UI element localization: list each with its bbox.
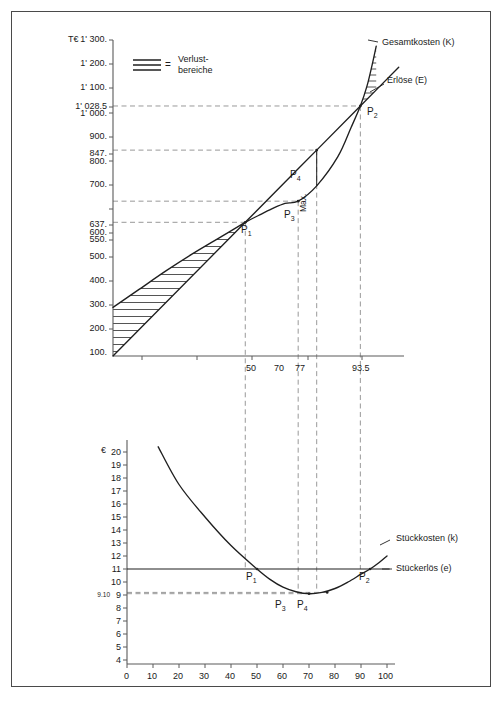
top-y-label-200: 200. [89, 323, 107, 333]
top-y-label-700: 700. [89, 179, 107, 189]
bottom-chart-y-axis-unit: € [101, 445, 106, 455]
bottom-point-P2-letter: P [359, 571, 366, 582]
bottom-x-label-0: 0 [124, 671, 129, 681]
bottom-y-label-10: 10 [111, 577, 121, 587]
bottom-x-label-20: 20 [173, 671, 183, 681]
bottom-chart-axes [127, 440, 395, 664]
top-y-label-1200: 1' 200. [80, 58, 107, 68]
bottom-x-label-100: 100 [378, 671, 393, 681]
top-point-P2-sub: 2 [374, 112, 378, 119]
bottom-y-label-9: 9 [116, 590, 121, 600]
top-x-label-70: 70 [274, 363, 284, 373]
bottom-x-label-40: 40 [225, 671, 235, 681]
top-point-P1: P1 [241, 225, 252, 239]
top-point-P3-sub: 3 [291, 215, 295, 222]
figure-frame: T€ 1' 300. 1' 200. 1' 100. 1' 028.5 1' 0… [11, 11, 491, 687]
bottom-x-label-30: 30 [199, 671, 209, 681]
bottom-y-label-19: 19 [111, 460, 121, 470]
bottom-chart-y-ticks [123, 452, 127, 660]
bottom-y-label-9-10: 9.10 [97, 590, 110, 600]
bottom-point-P3-letter: P [275, 599, 282, 610]
bottom-y-label-17: 17 [111, 486, 121, 496]
bottom-chart-x-ticks [127, 664, 387, 668]
top-point-P2: P2 [367, 107, 378, 121]
bottom-y-label-6: 6 [116, 629, 121, 639]
bottom-x-label-90: 90 [355, 671, 365, 681]
top-x-label-93-5: 93.5 [352, 363, 370, 373]
bottom-y-label-13: 13 [111, 538, 121, 548]
bottom-y-label-8: 8 [116, 603, 121, 613]
top-point-P4-letter: P [290, 169, 297, 180]
bottom-y-label-12: 12 [111, 551, 121, 561]
top-y-label-100: 100. [89, 347, 107, 357]
bottom-x-label-70: 70 [303, 671, 313, 681]
legend-equals-sign: = [165, 60, 171, 70]
top-chart-y-axis-unit: T€ [68, 34, 79, 44]
bottom-point-P4-letter: P [297, 599, 304, 610]
bottom-x-label-50: 50 [251, 671, 261, 681]
bottom-point-P4: P4 [297, 600, 308, 614]
unit-cost-curve-k [158, 447, 387, 594]
top-y-label-800: 800. [89, 156, 107, 166]
unit-cost-curve-label: Stückkosten (k) [396, 533, 458, 543]
top-x-label-77: 77 [295, 363, 305, 373]
bottom-y-label-16: 16 [111, 499, 121, 509]
top-point-P4: P4 [290, 170, 301, 184]
bottom-point-P2: P2 [359, 572, 370, 586]
top-y-label-500: 500. [89, 251, 107, 261]
bottom-y-label-5: 5 [116, 642, 121, 652]
top-y-label-1000: 1' 000. [80, 108, 107, 118]
bottom-y-label-14: 14 [111, 525, 121, 535]
bottom-y-label-4: 4 [116, 655, 121, 665]
bottom-curve-label-leaders [380, 540, 392, 569]
revenue-line-E [113, 67, 399, 356]
bottom-x-label-80: 80 [329, 671, 339, 681]
bottom-y-label-20: 20 [111, 447, 121, 457]
top-chart-guide-lines [113, 106, 360, 594]
legend-text-line2: bereiche [178, 65, 213, 75]
figure-page: T€ 1' 300. 1' 200. 1' 100. 1' 028.5 1' 0… [0, 0, 504, 709]
bottom-y-label-11: 11 [112, 564, 121, 574]
unit-revenue-curve-label: Stückerlös (e) [396, 563, 452, 573]
top-y-label-550: 550. [89, 234, 107, 244]
top-x-label-50: 50 [246, 363, 256, 373]
cost-curve-label: Gesamtkosten (K) [382, 37, 455, 47]
bottom-point-P4-sub: 4 [304, 605, 308, 612]
total-cost-curve-K [113, 46, 376, 307]
top-chart-y-ticks [109, 40, 113, 329]
legend-hatch-symbol [133, 60, 161, 70]
bottom-point-P3-sub: 3 [282, 605, 286, 612]
top-point-P2-letter: P [367, 106, 374, 117]
legend-text-line1: Verlust- [178, 54, 209, 64]
top-point-P3: P3 [284, 210, 295, 224]
bottom-point-P1-sub: 1 [253, 577, 257, 584]
top-y-label-400: 400. [89, 275, 107, 285]
top-y-label-1100: 1' 100. [80, 82, 107, 92]
top-y-label-300: 300. [89, 299, 107, 309]
bottom-y-label-7: 7 [116, 616, 121, 626]
top-point-P4-sub: 4 [297, 175, 301, 182]
bottom-point-P3: P3 [275, 600, 286, 614]
top-point-P1-letter: P [241, 224, 248, 235]
bottom-point-P1: P1 [246, 572, 257, 586]
top-y-label-900: 900. [89, 131, 107, 141]
bottom-point-P2-sub: 2 [366, 577, 370, 584]
bottom-x-label-10: 10 [147, 671, 157, 681]
revenue-curve-label: Erlöse (E) [387, 75, 427, 85]
bottom-x-label-60: 60 [277, 671, 287, 681]
top-chart-x-ticks [142, 356, 362, 360]
bottom-y-label-18: 18 [111, 473, 121, 483]
max-profit-label: Max. [298, 194, 308, 212]
top-point-P1-sub: 1 [248, 230, 252, 237]
bottom-y-label-15: 15 [111, 512, 121, 522]
top-y-label-1300: 1' 300. [80, 34, 107, 44]
top-point-P3-letter: P [284, 209, 291, 220]
bottom-point-P1-letter: P [246, 571, 253, 582]
